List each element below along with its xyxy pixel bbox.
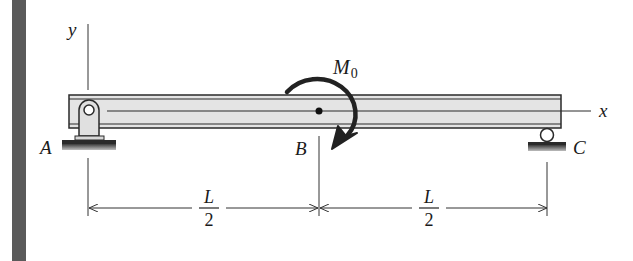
side-bar: [12, 0, 26, 261]
dimension-span-ab: L 2: [89, 187, 318, 230]
support-a-label: A: [38, 137, 52, 158]
span-bc-numerator: L: [423, 187, 434, 207]
span-ab-numerator: L: [203, 187, 214, 207]
roller-support-c: C: [528, 129, 586, 217]
moment-label: M0: [332, 56, 358, 81]
support-c-label: C: [573, 137, 586, 158]
x-axis-label: x: [598, 100, 608, 121]
span-bc-denominator: 2: [425, 210, 434, 230]
span-ab-denominator: 2: [205, 210, 214, 230]
dimension-span-bc: L 2: [320, 187, 547, 230]
y-axis-label: y: [66, 19, 77, 40]
beam-diagram: y x A B M0 C L: [0, 0, 633, 261]
point-b-dot: [316, 108, 323, 115]
beam: x: [69, 95, 608, 128]
point-b-label: B: [295, 138, 307, 159]
